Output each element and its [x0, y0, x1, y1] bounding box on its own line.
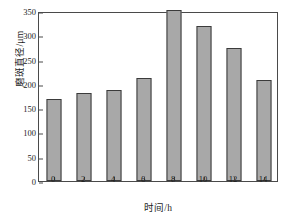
y-axis-tick-label: 0 [6, 177, 36, 187]
x-axis-tick-label: 0 [40, 174, 66, 184]
y-axis-tick-label: 150 [6, 104, 36, 114]
bar [197, 26, 212, 181]
y-axis-tick-mark [39, 134, 43, 135]
y-axis-tick-label: 300 [6, 31, 36, 41]
bar [47, 99, 62, 181]
bar [167, 10, 182, 181]
bar [227, 48, 242, 181]
y-axis-tick-label: 250 [6, 56, 36, 66]
x-axis-tick-label: 12 [220, 174, 246, 184]
x-axis-tick-label: 2 [70, 174, 96, 184]
y-axis-tick-label: 100 [6, 128, 36, 138]
y-axis-tick-mark [39, 110, 43, 111]
x-axis-title: 时间/h [38, 200, 278, 214]
x-axis-tick-label: 10 [190, 174, 216, 184]
bar [77, 93, 92, 181]
y-axis-tick-mark [39, 85, 43, 86]
x-axis-tick-label: 4 [100, 174, 126, 184]
bar [137, 78, 152, 181]
y-axis-tick-mark [39, 61, 43, 62]
x-axis-tick-label: 8 [160, 174, 186, 184]
bar [257, 80, 272, 181]
y-axis-tick-label: 350 [6, 7, 36, 17]
y-axis-tick-mark [39, 37, 43, 38]
y-axis-tick-label: 50 [6, 153, 36, 163]
bar [107, 90, 122, 181]
x-axis-tick-label: 6 [130, 174, 156, 184]
y-axis-tick-mark [39, 158, 43, 159]
y-axis-tick-label: 200 [6, 80, 36, 90]
plot-area [38, 12, 278, 182]
x-axis-tick-label: 14 [250, 174, 276, 184]
bar-chart-figure: 磨斑直径/μm 时间/h 050100150200250300350024681… [0, 0, 292, 220]
y-axis-tick-mark [39, 13, 43, 14]
